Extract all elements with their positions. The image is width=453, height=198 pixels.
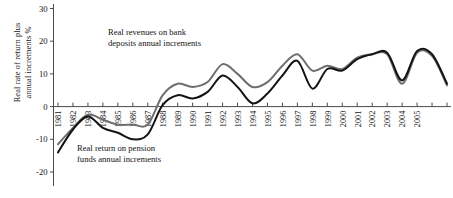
x-tick-label: 1993: [234, 111, 243, 128]
x-tick-label: 1999: [324, 111, 333, 128]
x-tick-label: 2000: [339, 111, 348, 128]
x-tick-label: 2001: [354, 111, 363, 128]
x-tick-label: 1996: [279, 111, 288, 128]
y-tick-label: -10: [36, 134, 47, 144]
x-tick-label: 1997: [294, 111, 303, 128]
x-tick-label: 2003: [383, 111, 392, 128]
x-tick-label: 1992: [219, 111, 228, 128]
y-tick-label: 10: [39, 69, 48, 79]
y-tick-label: 30: [39, 4, 48, 14]
series-line-bank-deposits: [58, 50, 447, 144]
x-tick-label: 1990: [189, 111, 198, 128]
x-tick-label: 1981: [54, 111, 63, 128]
x-tick-label: 1998: [309, 111, 318, 128]
x-tick-label: 2002: [368, 111, 377, 128]
data-series-group: [58, 49, 447, 153]
y-tick-label: 0: [43, 102, 47, 112]
line-chart-plot: 3020100-10-20 19811982198319841985198619…: [0, 0, 453, 198]
x-tick-label: 1988: [159, 111, 168, 128]
x-tick-label: 1995: [264, 111, 273, 128]
x-tick-label: 2005: [413, 111, 422, 128]
y-tick-label: 20: [39, 36, 48, 46]
series-line-pension-funds: [58, 49, 447, 153]
x-tick-label: 1994: [249, 110, 258, 127]
chart-figure: Real rate of return plus annual incremen…: [0, 0, 453, 198]
x-tick-label: 1989: [174, 111, 183, 128]
x-tick-label: 1991: [204, 111, 213, 128]
x-tick-label: 2004: [398, 110, 407, 127]
y-tick-label: -20: [36, 167, 47, 177]
y-axis: 3020100-10-20: [36, 4, 53, 186]
